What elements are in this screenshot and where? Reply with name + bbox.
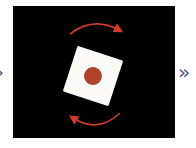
- rotate-clockwise-arrow-icon: [70, 24, 119, 34]
- card-shape: [63, 46, 123, 106]
- rotate-illustration-panel: [13, 6, 175, 138]
- rotate-illustration: [13, 6, 175, 138]
- rotate-counterclockwise-arrow-icon: [73, 113, 120, 125]
- next-chevron-icon[interactable]: »: [178, 60, 196, 84]
- previous-chevron-icon[interactable]: ›: [0, 60, 10, 84]
